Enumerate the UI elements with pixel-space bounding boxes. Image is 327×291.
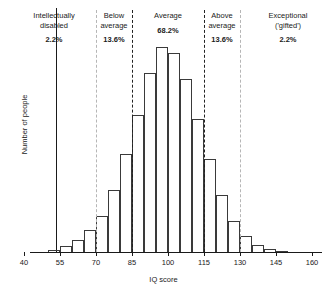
x-tick-mark bbox=[204, 252, 205, 256]
histogram-bar bbox=[240, 236, 252, 252]
histogram-bar bbox=[72, 240, 84, 252]
histogram-bar bbox=[180, 79, 192, 252]
histogram-bar bbox=[108, 190, 120, 252]
histogram-bar bbox=[84, 230, 96, 252]
histogram-bar bbox=[156, 47, 168, 252]
x-tick-label: 85 bbox=[117, 258, 147, 267]
x-tick-label: 115 bbox=[189, 258, 219, 267]
divider-line-130 bbox=[240, 10, 241, 252]
x-tick-mark bbox=[276, 252, 277, 256]
histogram-bar bbox=[168, 53, 180, 252]
x-tick-mark bbox=[132, 252, 133, 256]
category-annotation: Below average13.6% bbox=[96, 11, 132, 45]
x-tick-label: 130 bbox=[225, 258, 255, 267]
x-tick-mark bbox=[312, 252, 313, 256]
x-tick-label: 55 bbox=[45, 258, 75, 267]
category-name: Exceptional ('gifted') bbox=[240, 11, 327, 30]
plot-area: Number of people IQ score 40557085100115… bbox=[0, 0, 327, 291]
histogram-bar bbox=[60, 246, 72, 252]
category-percent: 13.6% bbox=[204, 35, 240, 45]
x-tick-label: 70 bbox=[81, 258, 111, 267]
divider-line-115 bbox=[204, 10, 205, 252]
x-tick-mark bbox=[240, 252, 241, 256]
category-name: Intellectually disabled bbox=[12, 11, 96, 30]
histogram-bar bbox=[276, 251, 288, 252]
category-name: Average bbox=[132, 11, 204, 21]
histogram-bar bbox=[204, 159, 216, 252]
histogram-bar bbox=[252, 245, 264, 252]
x-tick-label: 145 bbox=[261, 258, 291, 267]
category-annotation: Intellectually disabled2.2% bbox=[12, 11, 96, 45]
histogram-bar bbox=[120, 154, 132, 252]
x-tick-mark bbox=[24, 252, 25, 256]
histogram-bar bbox=[96, 216, 108, 252]
x-tick-label: 100 bbox=[153, 258, 183, 267]
iq-distribution-chart: Number of people IQ score 40557085100115… bbox=[0, 0, 327, 291]
histogram-bar bbox=[228, 221, 240, 252]
histogram-bar bbox=[216, 195, 228, 252]
x-tick-label: 40 bbox=[9, 258, 39, 267]
histogram-bar bbox=[48, 250, 60, 252]
category-percent: 68.2% bbox=[132, 26, 204, 36]
histogram-bar bbox=[192, 119, 204, 252]
x-tick-mark bbox=[168, 252, 169, 256]
category-percent: 2.2% bbox=[240, 35, 327, 45]
histogram-bar bbox=[132, 115, 144, 252]
category-percent: 2.2% bbox=[12, 35, 96, 45]
x-axis-line bbox=[30, 252, 322, 253]
x-tick-mark bbox=[96, 252, 97, 256]
histogram-bar bbox=[144, 73, 156, 252]
category-name: Below average bbox=[96, 11, 132, 30]
x-tick-mark bbox=[60, 252, 61, 256]
divider-line-70 bbox=[96, 10, 97, 252]
divider-line-85 bbox=[132, 10, 133, 252]
x-tick-label: 160 bbox=[297, 258, 327, 267]
y-axis-title: Number of people bbox=[20, 55, 29, 195]
category-annotation: Exceptional ('gifted')2.2% bbox=[240, 11, 327, 45]
x-axis-title: IQ score bbox=[0, 275, 327, 284]
y-axis-line bbox=[56, 8, 57, 253]
category-annotation: Average68.2% bbox=[132, 11, 204, 35]
category-annotation: Above average13.6% bbox=[204, 11, 240, 45]
histogram-bar bbox=[264, 249, 276, 252]
category-name: Above average bbox=[204, 11, 240, 30]
category-percent: 13.6% bbox=[96, 35, 132, 45]
